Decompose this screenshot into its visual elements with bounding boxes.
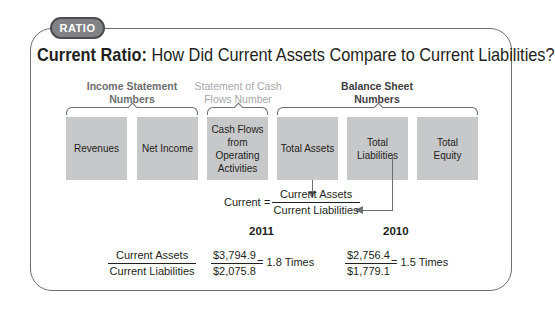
box-label: Equity bbox=[434, 149, 462, 162]
year-2011: 2011 bbox=[249, 225, 274, 237]
box-label: Revenues bbox=[74, 142, 119, 155]
group-label-line: Income Statement bbox=[76, 80, 188, 93]
calc-2010-result: = 1.5 Times bbox=[391, 256, 448, 268]
box-label: Cash Flows bbox=[211, 123, 263, 136]
calc-label-fraction: Current Assets Current Liabilities bbox=[108, 248, 196, 279]
formula-lhs: Current bbox=[224, 196, 261, 208]
connector-liabilities-horizontal bbox=[362, 210, 393, 211]
title-rest: How Did Current Assets Compare to Curren… bbox=[147, 44, 555, 65]
connector-liabilities bbox=[392, 156, 393, 210]
calc-2010-fraction: $2,756.4 $1,779.1 bbox=[345, 248, 392, 279]
box-label: Total bbox=[434, 136, 462, 149]
brace-balance-sheet bbox=[277, 107, 478, 115]
year-2010: 2010 bbox=[383, 225, 409, 237]
ratio-badge: RATIO bbox=[50, 17, 105, 39]
calc-label-denominator: Current Liabilities bbox=[110, 264, 195, 279]
page-title: Current Ratio: How Did Current Assets Co… bbox=[37, 44, 555, 66]
group-label-line: Balance Sheet bbox=[327, 80, 427, 93]
calc-label-numerator: Current Assets bbox=[108, 248, 196, 264]
box-total-assets: Total Assets bbox=[277, 117, 338, 180]
brace-cash-flows bbox=[207, 107, 268, 115]
calc-2010-numerator: $2,756.4 bbox=[345, 248, 392, 264]
group-label-line: Statement of Cash bbox=[192, 80, 284, 93]
formula-numerator: Current Assets bbox=[272, 187, 360, 203]
box-total-equity: Total Equity bbox=[417, 117, 478, 180]
box-label: Operating bbox=[211, 149, 263, 162]
box-cash-flows-operating: Cash Flows from Operating Activities bbox=[207, 117, 268, 180]
formula-fraction: Current Assets Current Liabilities bbox=[272, 187, 360, 218]
calc-2011-fraction: $3,794.9 $2,075.8 bbox=[211, 248, 258, 279]
box-label: Total bbox=[357, 136, 398, 149]
box-label: Net Income bbox=[142, 142, 193, 155]
calc-2010-denominator: $1,779.1 bbox=[347, 264, 390, 279]
box-label: from bbox=[211, 136, 263, 149]
box-revenues: Revenues bbox=[66, 117, 127, 180]
title-bold: Current Ratio: bbox=[37, 44, 147, 65]
calc-2011-denominator: $2,075.8 bbox=[213, 264, 256, 279]
formula-denominator: Current Liabilities bbox=[274, 203, 359, 218]
box-label: Activities bbox=[211, 162, 263, 175]
box-label: Total Assets bbox=[281, 142, 334, 155]
box-net-income: Net Income bbox=[137, 117, 198, 180]
ratio-badge-label: RATIO bbox=[60, 22, 96, 34]
calc-2011-numerator: $3,794.9 bbox=[211, 248, 258, 264]
calc-2011-result: = 1.8 Times bbox=[257, 256, 314, 268]
formula-equals: = bbox=[264, 196, 270, 208]
brace-income-statement bbox=[66, 107, 198, 115]
box-total-liabilities: Total Liabilities bbox=[347, 117, 408, 180]
